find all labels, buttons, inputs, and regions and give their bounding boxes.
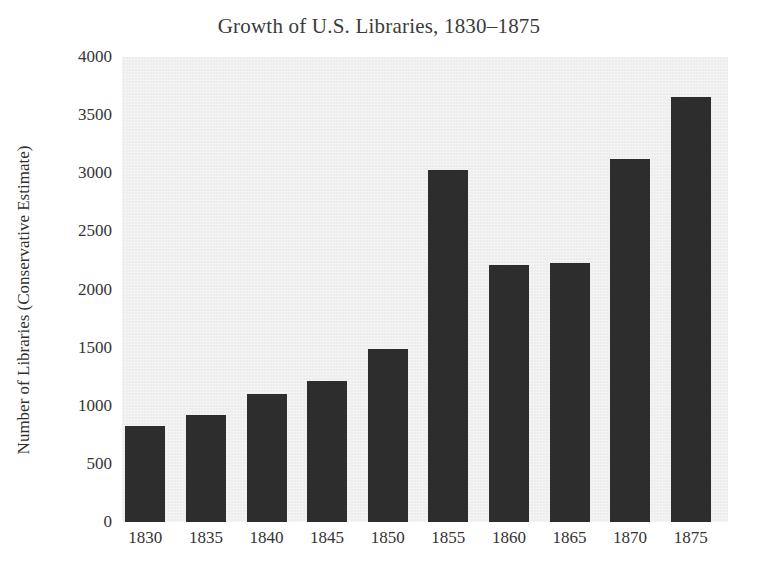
bar [307,381,347,522]
plot-area [122,57,728,522]
x-axis-tick-label: 1865 [553,528,587,548]
x-axis-tick-label: 1850 [371,528,405,548]
y-axis-tick-label: 2500 [78,221,112,241]
y-axis-tick-labels: 40003500300025002000150010005000 [0,0,122,572]
y-axis-tick-label: 4000 [78,47,112,67]
y-axis-tick-label: 0 [104,512,113,532]
y-axis-tick-label: 500 [87,454,113,474]
bar [368,349,408,522]
bar [428,170,468,522]
x-axis-tick-label: 1875 [674,528,708,548]
chart-figure: Growth of U.S. Libraries, 1830–1875 Numb… [0,0,758,572]
bar-series [122,57,728,522]
bar [125,426,165,522]
x-axis-tick-label: 1830 [128,528,162,548]
bar [610,159,650,522]
bar [247,394,287,522]
y-axis-tick-label: 3500 [78,105,112,125]
y-axis-tick-label: 2000 [78,280,112,300]
x-axis-tick-label: 1840 [250,528,284,548]
y-axis-tick-label: 1500 [78,338,112,358]
y-axis-tick-label: 3000 [78,163,112,183]
bar [186,415,226,522]
x-axis-tick-label: 1855 [431,528,465,548]
x-axis-tick-label: 1845 [310,528,344,548]
x-axis-tick-label: 1835 [189,528,223,548]
x-axis-tick-label: 1870 [613,528,647,548]
y-axis-tick-label: 1000 [78,396,112,416]
x-axis-tick-label: 1860 [492,528,526,548]
bar [550,263,590,522]
bar [671,97,711,522]
bar [489,265,529,522]
x-axis-tick-labels: 1830183518401845185018551860186518701875 [122,522,728,562]
